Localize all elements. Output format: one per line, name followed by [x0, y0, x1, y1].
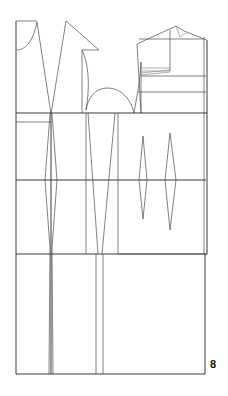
pattern-draft-canvas [0, 0, 228, 396]
page-number: 8 [205, 357, 221, 371]
page-background [0, 0, 228, 396]
pattern-draft-page: 8 [0, 0, 228, 396]
